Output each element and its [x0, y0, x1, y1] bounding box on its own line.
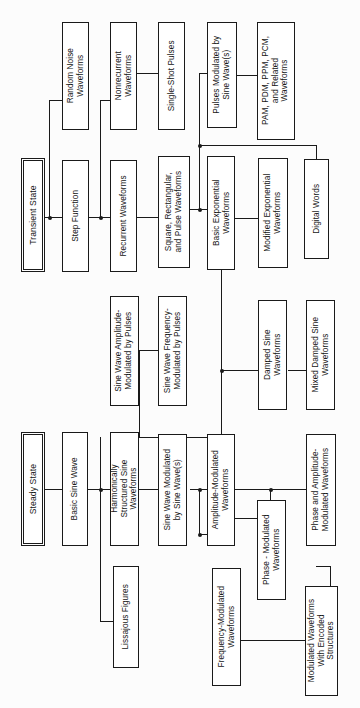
wire-damped-junction-down	[221, 370, 222, 437]
wire-basic-sine-up	[100, 437, 101, 490]
node-label: Nonrecurrent Waveforms	[114, 52, 133, 101]
wire-phaseamp-to-encoded	[330, 566, 331, 586]
wire-pulses-to-pam	[237, 75, 258, 76]
node-mixed-damped-sine-waveforms[interactable]: Mixed Damped Sine Waveforms	[306, 300, 335, 410]
node-label: Frequency-Modulated Waveforms	[217, 586, 236, 668]
node-label: Steady State	[28, 464, 38, 514]
node-label: Basic Exponential Waveforms	[211, 180, 230, 247]
wire-basic-exp-to-modified-exp	[235, 218, 258, 219]
node-label: Damped Sine Waveforms	[263, 330, 282, 381]
node-random-noise-waveforms[interactable]: Random Noise Waveforms	[62, 22, 89, 130]
node-label: Sine Wave Frequency- Modulated by Pulses	[163, 309, 182, 394]
node-label: Recurrent Waveforms	[119, 175, 129, 256]
node-pulses-modulated-by-sine-waves[interactable]: Pulses Modulated by Sine Wave(s)	[207, 22, 237, 128]
node-transient-state-frame: Transient State	[23, 160, 43, 270]
junction-square-branch	[198, 208, 202, 212]
node-digital-words[interactable]: Digital Words	[304, 159, 329, 259]
wire-pulse-mod-sine-group-up	[139, 350, 140, 438]
junction-transient	[48, 216, 52, 220]
node-label: Amplitude-Modulated Waveforms	[211, 450, 230, 529]
wire-sine-amp-mod-pulses-tap	[139, 350, 158, 351]
node-sine-wave-modulated-by-sine-waves[interactable]: Sine Wave Modulated by Sine Wave(s)	[158, 434, 187, 546]
node-label: Phase - Modulated Waveforms	[262, 515, 281, 585]
node-label: Sine Wave Modulated by Sine Wave(s)	[163, 449, 182, 531]
wire-harmonic-to-sine-mod	[137, 489, 158, 490]
node-label: Phase and Amplitude- Modulated Waveforms	[311, 448, 330, 532]
node-label: Random Noise Waveforms	[66, 48, 85, 103]
diagram-canvas: Transient State Steady State Random Nois…	[0, 0, 360, 708]
node-single-shot-pulses[interactable]: Single-Shot Pulses	[158, 22, 185, 130]
node-recurrent-waveforms[interactable]: Recurrent Waveforms	[110, 160, 137, 272]
node-damped-sine-waveforms[interactable]: Damped Sine Waveforms	[258, 300, 287, 410]
wire-trunk-transient-vertical	[49, 100, 50, 218]
node-label: Modified Exponential Waveforms	[263, 174, 282, 252]
wire-basic-exp-down	[221, 270, 222, 371]
node-label: Mixed Damped Sine Waveforms	[311, 317, 330, 392]
wire-recurrent-branch-vertical	[100, 100, 101, 218]
node-label: Step Function	[71, 190, 81, 242]
node-basic-exponential-waveforms[interactable]: Basic Exponential Waveforms	[207, 156, 235, 270]
node-label: Lissajous Figures	[121, 584, 131, 649]
node-label: Basic Sine Wave	[70, 457, 80, 520]
wire-steady-to-basic-sine	[45, 489, 62, 490]
node-steady-state[interactable]: Steady State	[21, 432, 45, 546]
wire-to-lissajous	[100, 621, 114, 622]
wire-trunk-to-random-noise	[49, 100, 63, 101]
node-steady-state-frame: Steady State	[23, 434, 43, 544]
node-label: Pulses Modulated by Sine Wave(s)	[212, 36, 231, 114]
node-phase-modulated-waveforms[interactable]: Phase - Modulated Waveforms	[257, 500, 286, 600]
node-phase-and-amplitude-modulated-waveforms[interactable]: Phase and Amplitude- Modulated Waveforms	[306, 434, 336, 546]
node-label: Transient State	[28, 185, 38, 244]
node-label: Modulated Waveforms With Encoded Structu…	[307, 599, 336, 683]
node-nonrecurrent-waveforms[interactable]: Nonrecurrent Waveforms	[110, 22, 137, 130]
node-label: Digital Words	[312, 184, 322, 234]
wire-square-junction-vertical	[199, 73, 200, 210]
node-step-function[interactable]: Step Function	[62, 160, 89, 272]
node-label: PAM, PDM, PPM, PCM, and Related Waveform…	[261, 36, 290, 125]
node-transient-state[interactable]: Transient State	[21, 158, 45, 272]
wire-basic-sine-down	[100, 489, 101, 622]
junction-recurrent	[99, 216, 103, 220]
wire-damped-junction-h	[221, 370, 258, 371]
node-label: Harmonically Structured Sine Waveforms	[110, 460, 139, 518]
node-sine-wave-amplitude-modulated-by-pulses[interactable]: Sine Wave Amplitude- Modulated by Pulses	[110, 296, 139, 406]
wire-junction-to-digital-words	[199, 145, 317, 146]
node-lissajous-figures[interactable]: Lissajous Figures	[113, 566, 139, 668]
node-sine-wave-frequency-modulated-by-pulses[interactable]: Sine Wave Frequency- Modulated by Pulses	[158, 296, 187, 406]
wire-digital-words-drop	[316, 145, 317, 159]
node-pam-pdm-ppm-pcm-waveforms[interactable]: PAM, PDM, PPM, PCM, and Related Waveform…	[257, 22, 295, 140]
node-modulated-waveforms-with-encoded-structures[interactable]: Modulated Waveforms With Encoded Structu…	[305, 586, 338, 696]
wire-fm-to-encoded	[241, 640, 306, 641]
wire-nonrecurrent-to-single-shot	[137, 73, 158, 74]
node-basic-sine-wave[interactable]: Basic Sine Wave	[62, 432, 88, 546]
node-label: Single-Shot Pulses	[167, 41, 177, 112]
node-square-rectangular-pulse-waveforms[interactable]: Square, Rectangular, and Pulse Waveforms	[158, 156, 190, 268]
node-label: Square, Rectangular, and Pulse Waveforms	[164, 171, 183, 253]
node-label: Sine Wave Amplitude- Modulated by Pulses	[115, 310, 134, 392]
wire-am-fm-vertical	[199, 489, 200, 535]
wire-recurrent-to-square	[137, 217, 158, 218]
wire-junction-to-pulses-modulated	[199, 73, 207, 74]
node-frequency-modulated-waveforms[interactable]: Frequency-Modulated Waveforms	[212, 568, 241, 686]
node-modified-exponential-waveforms[interactable]: Modified Exponential Waveforms	[258, 158, 288, 268]
wire-phaseamp-to-encoded-h	[316, 566, 331, 567]
node-harmonically-structured-sine-waveforms[interactable]: Harmonically Structured Sine Waveforms	[110, 432, 139, 546]
node-amplitude-modulated-waveforms[interactable]: Amplitude-Modulated Waveforms	[207, 434, 235, 546]
wire-damped-to-mixed-damped	[288, 370, 306, 371]
